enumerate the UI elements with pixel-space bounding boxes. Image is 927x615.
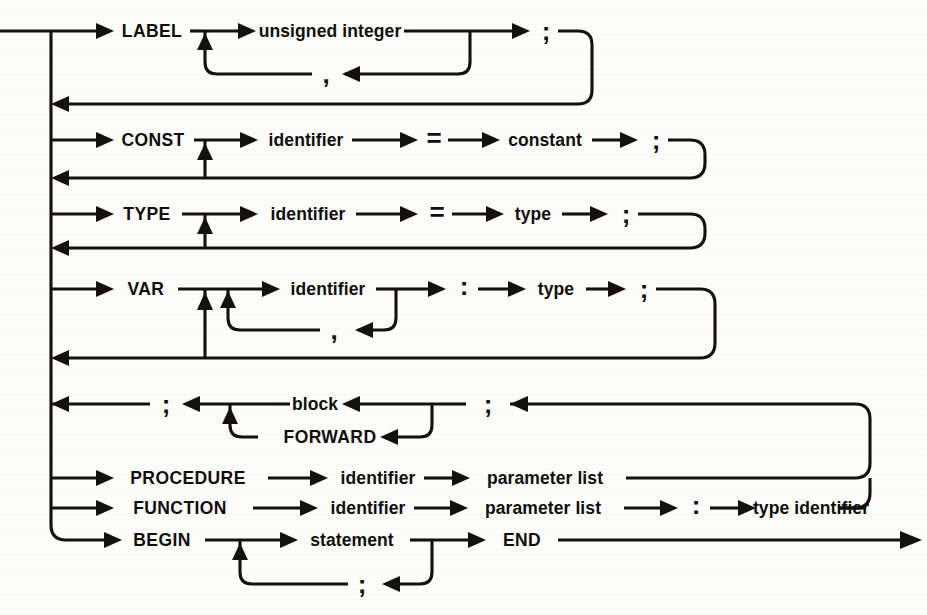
arrow-left-to-comma-var (355, 322, 373, 338)
node-label-keyword: LABEL (122, 21, 182, 41)
node-constant: constant (508, 130, 582, 150)
arrow-into-parameter-list-func (450, 500, 468, 516)
node-function-keyword: FUNCTION (133, 498, 227, 518)
block-row: ; block FORWARD ; (51, 389, 870, 508)
arrow-up-type-repeat (197, 217, 213, 234)
begin-row: BEGIN statement ; END (104, 530, 922, 599)
node-forward-keyword: FORWARD (284, 427, 377, 447)
arrow-up-const-repeat (197, 143, 213, 160)
arrow-into-type-word (486, 206, 504, 222)
arrow-left-into-forward (380, 429, 398, 445)
function-row: FUNCTION identifier parameter list : typ… (51, 490, 869, 520)
arrow-left-into-semicolon-block-right (510, 396, 528, 412)
node-colon-var: : (460, 271, 469, 301)
node-semicolon-type: ; (622, 199, 631, 229)
node-semicolon-block-right: ; (484, 389, 493, 419)
node-identifier-func: identifier (331, 498, 406, 518)
node-equals-const: = (426, 123, 441, 153)
node-identifier-var: identifier (291, 279, 366, 299)
arrow-into-const (96, 132, 114, 148)
arrow-into-function-keyword (96, 500, 114, 516)
arrow-into-identifier-proc (310, 470, 328, 486)
arrow-left-into-semicolon-block (182, 396, 200, 412)
node-semicolon-label: ; (542, 16, 551, 46)
arrow-up-var-repeat (197, 292, 213, 310)
arrow-into-identifier-type (240, 206, 258, 222)
node-semicolon-block-left: ; (162, 389, 171, 419)
arrow-into-identifier-const (240, 132, 258, 148)
node-begin-keyword: BEGIN (133, 530, 190, 550)
node-type-keyword: TYPE (123, 204, 170, 224)
node-comma-label-loop: , (322, 59, 329, 89)
node-end-keyword: END (503, 530, 541, 550)
var-row: VAR identifier , : type (51, 271, 715, 366)
label-row: LABEL unsigned integer , ; (51, 16, 592, 112)
node-comma-var-loop: , (330, 315, 337, 345)
arrow-into-unsigned-integer (238, 23, 256, 39)
node-type-var: type (538, 279, 575, 299)
syntax-diagram-page: LABEL unsigned integer , ; (0, 0, 927, 615)
node-parameter-list-func: parameter list (485, 498, 601, 518)
arrow-into-semicolon-type (590, 206, 608, 222)
const-row: CONST identifier = constant ; (51, 123, 705, 186)
node-procedure-keyword: PROCEDURE (130, 468, 245, 488)
node-colon-func: : (692, 490, 701, 520)
procedure-row: PROCEDURE identifier parameter list (51, 468, 840, 488)
arrow-into-type-var (508, 281, 526, 297)
arrow-into-colon-func (660, 500, 678, 516)
arrow-into-begin-keyword (104, 532, 122, 548)
railroad-diagram-canvas: LABEL unsigned integer , ; (0, 0, 927, 615)
node-identifier-proc: identifier (341, 468, 416, 488)
node-semicolon-var: ; (640, 274, 649, 304)
arrow-into-constant (482, 132, 500, 148)
arrow-into-identifier-func (300, 500, 318, 516)
arrow-into-semicolon-label (512, 23, 530, 39)
arrow-left-label-return (51, 96, 69, 112)
node-semicolon-const: ; (652, 125, 661, 155)
node-semicolon-statement: ; (358, 569, 367, 599)
arrow-up-forward-merge (222, 407, 238, 424)
node-const-keyword: CONST (121, 130, 184, 150)
node-identifier-const: identifier (269, 130, 344, 150)
arrow-exit-diagram (900, 531, 922, 549)
arrow-into-statement (280, 532, 298, 548)
type-row: TYPE identifier = type ; (51, 197, 705, 256)
arrow-into-label (96, 23, 114, 39)
arrow-left-type-return (51, 240, 69, 256)
arrow-left-to-comma (342, 66, 360, 82)
node-unsigned-integer: unsigned integer (259, 21, 402, 41)
arrow-into-colon-var (428, 281, 446, 297)
arrow-into-equals-const (400, 132, 418, 148)
node-parameter-list-proc: parameter list (487, 468, 603, 488)
arrow-into-end-keyword (468, 532, 486, 548)
arrow-into-identifier-var (262, 281, 280, 297)
arrow-left-const-return (51, 170, 69, 186)
arrow-into-parameter-list-proc (452, 470, 470, 486)
arrow-into-type-keyword (96, 206, 114, 222)
node-statement: statement (310, 530, 394, 550)
arrow-left-to-semicolon-statement (382, 576, 400, 592)
arrow-left-var-return (51, 350, 69, 366)
arrow-into-equals-type (400, 206, 418, 222)
node-type-word: type (515, 204, 552, 224)
arrow-into-semicolon-var (608, 281, 626, 297)
node-equals-type: = (429, 197, 444, 227)
arrow-into-semicolon-const (620, 132, 638, 148)
entry-rail (0, 31, 104, 540)
arrow-left-into-block (342, 396, 360, 412)
node-var-keyword: VAR (128, 279, 165, 299)
arrow-into-var-keyword (96, 281, 114, 297)
node-identifier-type: identifier (271, 204, 346, 224)
arrow-into-procedure-keyword (96, 470, 114, 486)
node-block: block (292, 394, 338, 414)
